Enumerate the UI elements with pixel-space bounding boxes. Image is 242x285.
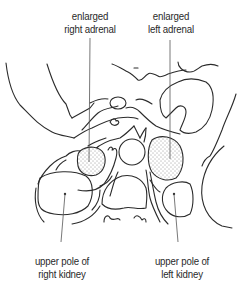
- label-left-adrenal: enlarged left adrenal: [141, 10, 201, 36]
- label-line: upper pole of: [150, 255, 213, 268]
- label-line: enlarged: [60, 10, 120, 23]
- left-adrenal: [148, 137, 183, 180]
- vessel-shape: [110, 97, 126, 109]
- label-line: upper pole of: [30, 255, 93, 268]
- label-line: right kidney: [30, 268, 93, 281]
- label-left-kidney: upper pole of left kidney: [150, 255, 213, 281]
- stomach-outline: [112, 64, 186, 80]
- leader-right-kidney: [61, 194, 65, 242]
- anatomy-diagram: [0, 0, 242, 285]
- body-contour-left: [6, 63, 74, 138]
- body-contour-right: [202, 94, 236, 166]
- liver-edge: [47, 64, 72, 118]
- spleen-outline: [160, 79, 213, 133]
- label-line: left adrenal: [141, 23, 201, 36]
- label-right-adrenal: enlarged right adrenal: [60, 10, 120, 36]
- aorta: [119, 139, 145, 165]
- leader-right-adrenal: [89, 38, 90, 162]
- label-line: right adrenal: [60, 23, 120, 36]
- right-adrenal: [77, 147, 105, 175]
- label-line: left kidney: [150, 268, 213, 281]
- left-kidney: [162, 182, 193, 217]
- label-line: enlarged: [141, 10, 201, 23]
- leader-left-kidney: [174, 194, 178, 242]
- label-right-kidney: upper pole of right kidney: [30, 255, 93, 281]
